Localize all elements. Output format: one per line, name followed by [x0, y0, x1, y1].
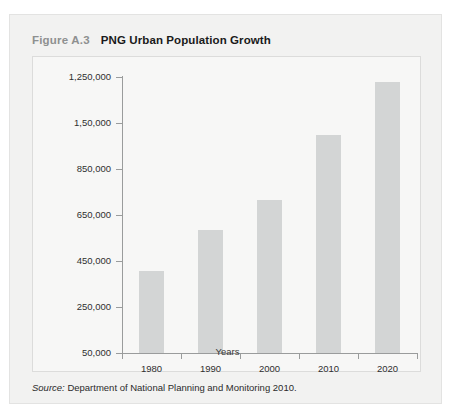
y-axis-tick-label: 1,50,000 [31, 118, 111, 128]
bar-1990 [198, 230, 223, 353]
bar-2000 [257, 200, 282, 353]
y-axis-line [122, 76, 123, 354]
x-axis-tick-label: 1980 [122, 363, 182, 374]
y-axis-tick [116, 123, 122, 124]
source-label: Source: [32, 382, 65, 393]
figure-card: Figure A.3PNG Urban Population Growth Po… [9, 14, 442, 404]
y-axis-tick-label: 650,000 [31, 210, 111, 220]
page-title: PNG Urban Population Growth [101, 34, 271, 46]
y-axis-tick-label: 250,000 [31, 302, 111, 312]
source-text: Department of National Planning and Moni… [65, 382, 297, 393]
chart-plot-area: Population 50,000250,000450,000650,00085… [32, 56, 421, 372]
source-note: Source: Department of National Planning … [32, 382, 297, 393]
y-axis-tick-label: 1,250,000 [31, 72, 111, 82]
x-axis-title: Years [33, 346, 422, 357]
y-axis-tick [116, 77, 122, 78]
bar-2010 [316, 135, 341, 354]
x-axis-tick-label: 1990 [181, 363, 241, 374]
y-axis-tick [116, 261, 122, 262]
figure-title-row: Figure A.3PNG Urban Population Growth [32, 30, 271, 48]
x-axis-tick-label: 2000 [240, 363, 300, 374]
y-axis-tick-label: 850,000 [31, 164, 111, 174]
y-axis-tick [116, 169, 122, 170]
bar-1980 [139, 271, 164, 353]
y-axis-tick [116, 215, 122, 216]
x-axis-tick-label: 2010 [299, 363, 359, 374]
y-axis-tick-label: 450,000 [31, 256, 111, 266]
x-axis-tick-label: 2020 [358, 363, 418, 374]
bar-2020 [375, 82, 400, 353]
y-axis-tick [116, 307, 122, 308]
